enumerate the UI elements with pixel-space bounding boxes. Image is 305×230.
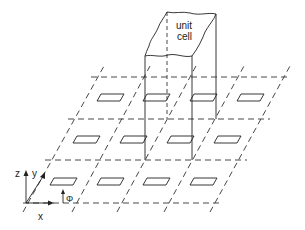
periodic-array-diagram: unit cell z y x Φ bbox=[0, 0, 305, 230]
phi-label: Φ bbox=[66, 194, 73, 204]
slot-array bbox=[50, 94, 264, 185]
x-axis-label: x bbox=[38, 211, 43, 222]
y-axis-arrow-icon bbox=[40, 172, 45, 179]
z-axis-arrow-icon bbox=[24, 170, 29, 176]
y-axis-label: y bbox=[32, 168, 37, 179]
coordinate-axes: z y x Φ bbox=[15, 168, 73, 222]
unit-cell-label-line2: cell bbox=[177, 31, 192, 42]
x-axis-arrow-icon bbox=[48, 201, 54, 206]
z-axis-label: z bbox=[15, 168, 20, 179]
unit-cell-label-line1: unit bbox=[176, 20, 192, 31]
phi-arrow-icon bbox=[61, 189, 65, 194]
slot bbox=[97, 94, 124, 101]
